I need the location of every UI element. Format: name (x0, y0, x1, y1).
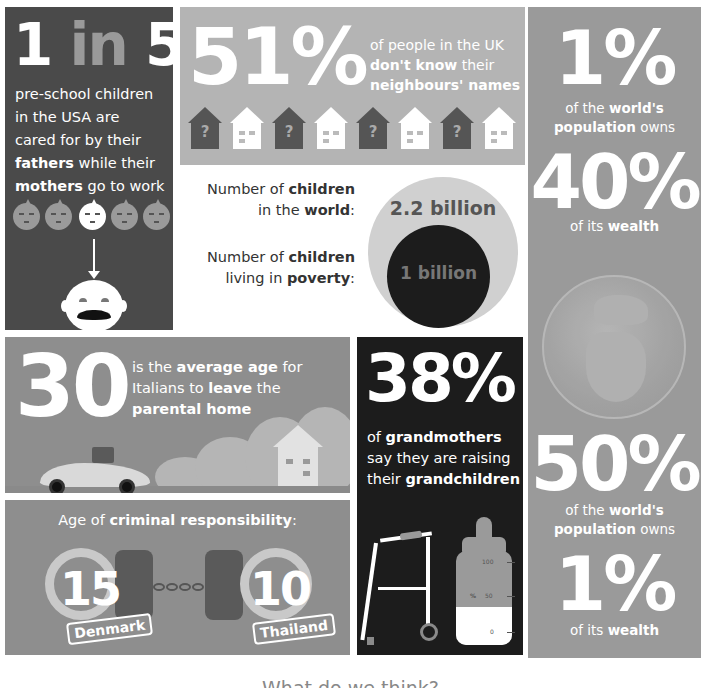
suitcase-icon (92, 447, 114, 463)
stat-40-percent: 40% (528, 145, 701, 219)
baby-face-highlighted-icon (79, 203, 106, 230)
stat-30: 30 (15, 343, 129, 429)
grandmothers-stat-description: of grandmothers say they are raising the… (367, 427, 523, 490)
bottle-scale-0: 0 (490, 628, 494, 635)
house-unknown-icon: ? (440, 107, 474, 151)
houses-row: ? ? ? ? (188, 107, 518, 155)
neighbours-stat-panel: 51% of people in the UK don't know their… (180, 7, 525, 165)
children-world-label: Number of children in the world: (207, 179, 355, 221)
grandmothers-stat-panel: 38% of grandmothers say they are raising… (357, 337, 523, 655)
bottle-scale-50: 50 (485, 592, 493, 599)
globe-icon (542, 275, 686, 419)
bottle-scale-100: 100 (482, 558, 493, 565)
criminal-responsibility-panel: Age of criminal responsibility: 15 10 De… (5, 500, 350, 655)
arrowhead-icon (88, 271, 100, 279)
criminal-responsibility-title: Age of criminal responsibility: (5, 512, 350, 528)
stat-1-percent-top: 1% (528, 21, 701, 95)
stat-1-in-5: 1 in 5 (13, 15, 173, 75)
scale-tick (507, 562, 515, 563)
scale-tick (507, 596, 515, 597)
poverty-children-value: 1 billion (387, 263, 490, 283)
scale-tick (507, 632, 515, 633)
house-unknown-icon: ? (272, 107, 306, 151)
wealth-caption-3: of the world's population owns (528, 501, 701, 539)
bottle-scale-unit: % (470, 592, 476, 599)
stat-50-percent: 50% (528, 427, 701, 501)
house-unknown-icon: ? (356, 107, 390, 151)
denmark-age: 15 (60, 566, 120, 612)
father-mustache-icon (65, 280, 123, 330)
wealth-caption-1: of the world's population owns (528, 99, 701, 137)
wealth-caption-4: of its wealth (528, 621, 701, 640)
stat-1-percent-bottom: 1% (528, 547, 701, 621)
stat-38-percent: 38% (365, 345, 514, 413)
fathers-stat-panel: 1 in 5 pre-school children in the USA ar… (5, 7, 173, 330)
baby-face-icon (143, 203, 170, 230)
italians-stat-description: is the average age for Italians to leave… (132, 357, 350, 420)
children-poverty-label: Number of children living in poverty: (207, 247, 355, 289)
baby-faces-row (13, 203, 173, 235)
walking-frame-icon (372, 535, 437, 645)
handcuff-left-lock-icon (115, 550, 153, 620)
parental-home-icon (273, 425, 323, 487)
house-known-icon (230, 107, 264, 151)
section-heading-partial: What do we think? (0, 676, 701, 688)
children-poverty-panel: Number of children in the world: Number … (180, 165, 525, 335)
house-unknown-icon: ? (188, 107, 222, 151)
italians-home-panel: 30 is the average age for Italians to le… (5, 337, 350, 493)
fathers-stat-description: pre-school children in the USA are cared… (15, 83, 173, 198)
stat-51-percent: 51% (188, 17, 366, 97)
wealth-stat-panel: 1% of the world's population owns 40% of… (528, 7, 701, 658)
chain-icon (153, 583, 205, 591)
car-wheel-icon (119, 479, 135, 493)
baby-face-icon (45, 203, 72, 230)
car-wheel-icon (49, 479, 65, 493)
baby-bottle-icon (454, 517, 514, 645)
baby-face-icon (13, 203, 40, 230)
wealth-caption-2: of its wealth (528, 217, 701, 236)
world-children-value: 2.2 billion (368, 197, 518, 219)
neighbours-stat-description: of people in the UK don't know their nei… (370, 35, 525, 95)
handcuff-right-lock-icon (205, 550, 243, 620)
house-known-icon (398, 107, 432, 151)
thailand-age: 10 (250, 566, 310, 612)
house-known-icon (482, 107, 516, 151)
house-known-icon (314, 107, 348, 151)
arrow-down-icon (93, 239, 95, 275)
baby-face-icon (111, 203, 138, 230)
